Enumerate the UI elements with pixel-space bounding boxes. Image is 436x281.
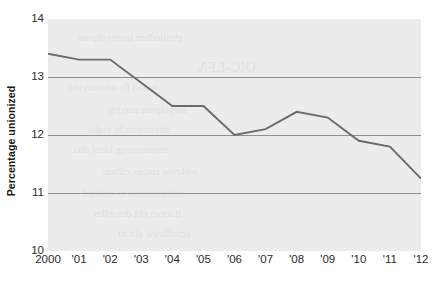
y-axis-tick-11: 11 [18, 187, 44, 199]
x-axis-tick-08: '08 [289, 254, 304, 266]
unionization-line-chart: Percentage unionized 1011121314 ghniledb… [0, 0, 436, 281]
x-axis-tick-07: '07 [258, 254, 273, 266]
x-axis-tick-12: '12 [414, 254, 429, 266]
x-axis-tick-10: '10 [351, 254, 366, 266]
x-axis-tick-labels: 2000'01'02'03'04'05'06'07'08'09'10'11'12 [48, 254, 421, 276]
x-axis-tick-05: '05 [196, 254, 211, 266]
x-axis-tick-06: '06 [227, 254, 242, 266]
series-polyline [48, 54, 421, 179]
x-axis-tick-2000: 2000 [35, 254, 61, 266]
y-axis-tick-14: 14 [18, 13, 44, 25]
plot-area: ghniledbm tnemyolpmeOIC-LFAnoinu fo rebm… [48, 19, 421, 251]
data-series-line [48, 19, 421, 251]
x-axis-tick-01: '01 [72, 254, 87, 266]
y-axis-tick-12: 12 [18, 129, 44, 141]
y-axis-tick-labels: 1011121314 [14, 0, 44, 281]
y-axis-tick-13: 13 [18, 71, 44, 83]
x-axis-tick-11: '11 [383, 254, 397, 266]
x-axis-tick-03: '03 [134, 254, 149, 266]
x-axis-tick-09: '09 [320, 254, 335, 266]
x-axis-tick-04: '04 [165, 254, 180, 266]
x-axis-tick-02: '02 [103, 254, 118, 266]
